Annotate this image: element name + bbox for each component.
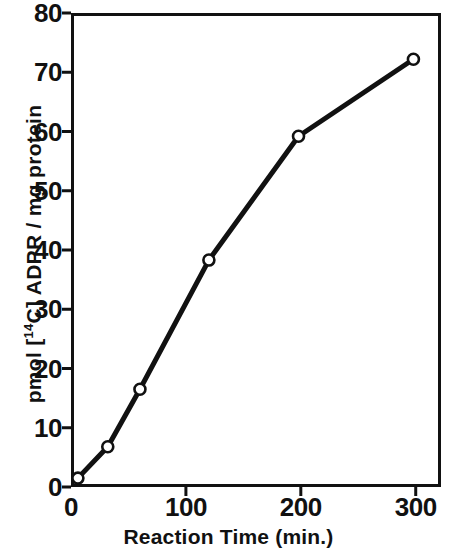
y-axis-ticks (62, 13, 71, 487)
isotope-superscript: 14 (21, 323, 36, 338)
plot-area (71, 13, 441, 487)
x-axis-tick-label: 100 (165, 494, 207, 520)
y-axis-title: pmol [14C] ADPR / mg protein (22, 24, 46, 484)
y-axis-tick-label: 80 (34, 0, 62, 26)
x-axis-tick-label: 0 (64, 494, 78, 520)
x-axis-tick-label: 200 (280, 494, 322, 520)
x-axis-tick-label: 300 (395, 494, 437, 520)
chart-figure: 01020304050607080 0100200300 Reaction Ti… (0, 0, 457, 559)
x-axis-title: Reaction Time (min.) (0, 525, 457, 549)
y-axis-tick-label: 0 (48, 474, 62, 500)
